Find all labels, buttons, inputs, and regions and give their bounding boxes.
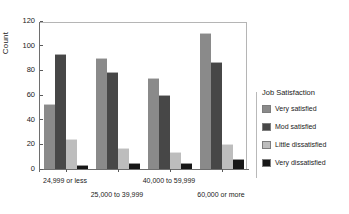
bar — [66, 139, 77, 169]
bar — [44, 104, 55, 169]
legend-label: Very dissatisfied — [275, 158, 326, 168]
legend-swatch — [262, 105, 271, 113]
bar-highlight — [118, 148, 129, 149]
x-tick-mark — [66, 169, 67, 172]
bar — [96, 58, 107, 169]
bar — [181, 163, 192, 169]
x-tick-label: 60,000 or more — [181, 190, 261, 199]
bar — [118, 148, 129, 169]
bar-highlight — [159, 95, 170, 96]
legend-title: Job Satisfaction — [262, 88, 315, 98]
bar — [129, 163, 140, 169]
bar-highlight — [55, 54, 66, 55]
bar — [148, 78, 159, 169]
bar — [211, 62, 222, 169]
bar-group — [44, 23, 88, 169]
y-tick-label: 60 — [27, 90, 35, 99]
bar-highlight — [129, 163, 140, 164]
bar-group — [96, 23, 140, 169]
bar-highlight — [66, 139, 77, 140]
bar — [55, 54, 66, 169]
x-tick-label: 24,999 or less — [25, 176, 105, 185]
bar — [159, 95, 170, 169]
y-tick-mark — [40, 169, 43, 170]
bar-highlight — [233, 159, 244, 160]
x-tick-mark — [222, 169, 223, 172]
bar-highlight — [222, 144, 233, 145]
bar-highlight — [170, 152, 181, 153]
bar-group — [148, 23, 192, 169]
x-tick-mark — [118, 169, 119, 172]
legend-swatch — [262, 123, 271, 131]
y-tick-label: 0 — [31, 164, 35, 173]
y-axis-title: Count — [1, 8, 13, 78]
x-tick-label: 40,000 to 59,999 — [129, 176, 209, 185]
y-tick-label: 100 — [22, 41, 35, 50]
y-tick-mark — [40, 95, 43, 96]
x-tick-mark — [170, 169, 171, 172]
y-tick-label: 40 — [27, 115, 35, 124]
bar-group — [200, 23, 244, 169]
y-tick-mark — [40, 45, 43, 46]
legend-swatch — [262, 159, 271, 167]
y-tick-label: 80 — [27, 65, 35, 74]
plot-area: 020406080100120 — [39, 22, 247, 170]
legend-label: Mod satisfied — [275, 122, 316, 132]
bar-highlight — [181, 163, 192, 164]
legend-swatch — [262, 141, 271, 149]
x-axis-line — [39, 169, 249, 170]
y-tick-mark — [40, 144, 43, 145]
y-tick-mark — [40, 70, 43, 71]
bar-highlight — [77, 165, 88, 166]
bar-highlight — [148, 78, 159, 79]
bar-highlight — [200, 33, 211, 34]
bar — [200, 33, 211, 169]
bar-highlight — [96, 58, 107, 59]
y-tick-mark — [40, 21, 43, 22]
bar — [233, 159, 244, 169]
y-tick-mark — [40, 119, 43, 120]
bar-highlight — [211, 62, 222, 63]
legend-divider — [256, 92, 257, 178]
bar-chart: Count 020406080100120 24,999 or less25,0… — [0, 0, 349, 214]
y-tick-label: 20 — [27, 139, 35, 148]
bar — [77, 165, 88, 169]
y-tick-label: 120 — [22, 16, 35, 25]
bar — [170, 152, 181, 169]
bar-highlight — [44, 104, 55, 105]
bar-highlight — [107, 72, 118, 73]
legend-label: Very satisfied — [275, 104, 317, 114]
x-tick-label: 25,000 to 39,999 — [77, 190, 157, 199]
bar — [107, 72, 118, 169]
legend-label: Little dissatisfied — [275, 140, 326, 150]
bar — [222, 144, 233, 169]
